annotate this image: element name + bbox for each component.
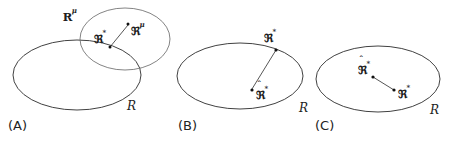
- panel-c-point-star-hat-marker: [371, 75, 374, 78]
- panel-c-point-star-label: ℜ*: [398, 85, 410, 101]
- panel-a-region-mu-label: Rμ: [63, 8, 77, 24]
- panel-b-segment-hat-to-star: [252, 50, 276, 89]
- panel-b-outer-region-label: R: [299, 99, 308, 115]
- panel-a-segment-star-to-mu: [110, 25, 128, 47]
- panel-a-point-star-marker: [109, 46, 112, 49]
- panel-a-point-star-label: ℜ*: [94, 30, 106, 46]
- panel-b-point-star-hat-marker: [250, 88, 253, 91]
- panel-c-segment-hat-to-star: [373, 77, 394, 90]
- panel-a-outer-region-ellipse: [13, 40, 141, 110]
- panel-a-caption: (A): [8, 118, 27, 133]
- panel-b-point-star-hat-label: ˆℜ*: [256, 86, 268, 102]
- panel-a-point-mu-label: ℜμ: [131, 22, 145, 38]
- panel-a-outer-region-label: R: [127, 97, 136, 113]
- panel-c-point-star-hat-label: ˆℜ*: [358, 61, 370, 77]
- panel-a-point-mu-marker: [127, 23, 130, 26]
- panel-b-point-star-marker: [274, 48, 277, 51]
- panel-c-group: [316, 46, 440, 112]
- panel-b-point-star-label: ℜ*: [264, 29, 276, 45]
- panel-c-outer-region-label: R: [430, 101, 439, 117]
- panel-c-point-star-marker: [392, 88, 395, 91]
- panel-b-group: [177, 43, 303, 109]
- panel-b-caption: (B): [178, 118, 197, 133]
- panel-a-group: [13, 8, 170, 110]
- panel-c-caption: (C): [315, 118, 334, 133]
- panel-c-outer-region-ellipse: [316, 46, 440, 112]
- figure-canvas: Rμ ℜ* ℜμ R (A) ℜ* ˆℜ* R (B) ˆℜ* ℜ* R (C): [0, 0, 456, 148]
- panel-b-outer-region-ellipse: [177, 43, 303, 109]
